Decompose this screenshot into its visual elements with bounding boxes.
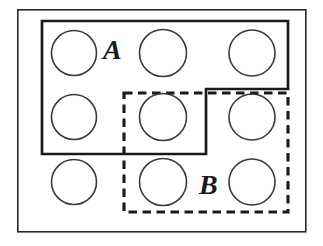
venn-diagram-canvas <box>0 0 323 246</box>
element-circle <box>229 30 275 76</box>
element-circle <box>52 160 97 205</box>
element-circle <box>140 94 187 141</box>
element-circle <box>52 95 97 140</box>
set-diagram-figure: A B <box>0 0 323 246</box>
element-circle <box>140 30 187 77</box>
set-a-boundary <box>42 21 288 154</box>
element-circle <box>140 159 187 206</box>
universal-set-rectangle <box>18 10 306 232</box>
element-circle <box>229 159 275 205</box>
set-a-label: A <box>103 36 122 64</box>
element-circle <box>52 31 97 76</box>
set-b-label: B <box>199 171 218 199</box>
element-circle <box>229 94 275 140</box>
